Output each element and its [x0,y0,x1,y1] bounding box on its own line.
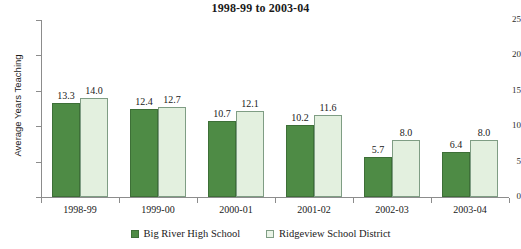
bar-chart: 1998-99 to 2003-04 Average Years Teachin… [0,0,521,249]
bar-value-label: 8.0 [464,127,504,138]
chart-title: 1998-99 to 2003-04 [0,1,521,16]
x-tick [431,198,432,203]
chart-legend: Big River High SchoolRidgeview School Di… [0,228,521,239]
legend-swatch-icon [266,230,274,238]
bar [52,103,80,197]
x-axis-label: 1999-00 [119,204,197,215]
bar [314,115,342,197]
bar [442,152,470,197]
bar-value-label: 10.2 [280,112,320,123]
bar-value-label: 8.0 [386,127,426,138]
bar-value-label: 6.4 [436,139,476,150]
bar [286,125,314,197]
legend-swatch-icon [131,230,139,238]
bar-value-label: 14.0 [74,85,114,96]
bar [364,157,392,197]
bar [208,121,236,197]
plot-area [41,20,509,197]
x-axis-label: 2002-03 [353,204,431,215]
x-tick [197,198,198,203]
bar [130,109,158,197]
legend-label: Big River High School [144,228,241,239]
bar [236,111,264,197]
x-axis-label: 2001-02 [275,204,353,215]
x-axis-label: 1998-99 [41,204,119,215]
legend-item: Ridgeview School District [266,228,390,239]
bar [80,98,108,197]
x-tick [275,198,276,203]
legend-label: Ridgeview School District [279,228,390,239]
x-axis-label: 2003-04 [431,204,509,215]
bar-value-label: 12.7 [152,94,192,105]
y-axis-title: Average Years Teaching [12,36,23,176]
bar-value-label: 5.7 [358,144,398,155]
bar-value-label: 11.6 [308,102,348,113]
x-tick [41,198,42,203]
x-axis-label: 2000-01 [197,204,275,215]
legend-item: Big River High School [131,228,241,239]
x-tick [353,198,354,203]
x-tick [509,198,510,203]
bar-value-label: 10.7 [202,108,242,119]
bar [158,107,186,197]
x-tick [119,198,120,203]
bar-value-label: 12.1 [230,98,270,109]
